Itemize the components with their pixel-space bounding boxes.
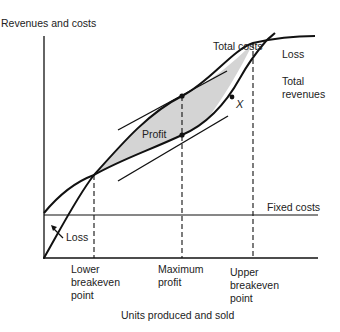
loss-lower-label: Loss	[66, 231, 88, 244]
fixed-costs-label: Fixed costs	[267, 201, 320, 214]
total-revenues-label-line2: revenues	[282, 88, 325, 101]
max-revenue-point	[179, 93, 184, 98]
point-x-marker	[230, 95, 235, 100]
total-costs-label: Total costs	[213, 40, 263, 53]
point-x-label: X	[236, 98, 243, 111]
lower-breakeven-label-line3: point	[71, 289, 94, 302]
max-cost-point	[179, 132, 184, 137]
upper-breakeven-label-line2: breakeven	[230, 279, 279, 292]
total-revenues-curve	[44, 36, 315, 258]
lower-breakeven-label-line2: breakeven	[71, 276, 120, 289]
loss-upper-label: Loss	[282, 48, 304, 61]
y-axis-label: Revenues and costs	[1, 17, 96, 30]
breakeven-diagram: Revenues and costs Total costs Loss Tota…	[0, 0, 340, 332]
max-profit-label-line1: Maximum	[158, 263, 204, 276]
max-profit-label-line2: profit	[158, 276, 181, 289]
x-axis-label: Units produced and sold	[121, 309, 234, 322]
profit-region	[94, 43, 253, 175]
loss-arrow-head-icon	[51, 225, 57, 231]
profit-label: Profit	[142, 128, 167, 141]
lower-breakeven-label-line1: Lower	[71, 263, 100, 276]
upper-breakeven-label-line1: Upper	[230, 266, 259, 279]
upper-breakeven-label-line3: point	[230, 292, 253, 305]
total-revenues-label-line1: Total	[282, 75, 304, 88]
